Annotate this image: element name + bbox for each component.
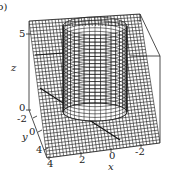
x-tick-neg2: -2 [135,147,145,157]
cylinder-mesh [63,17,127,121]
x-axis-label: x [108,162,114,172]
surface-plot: b) 5 z 0 -2 0 y 4 4 2 0 -2 x [0,0,171,174]
z-axis-label: z [11,63,16,73]
x-tick-2: 2 [79,155,85,165]
plot-canvas [0,0,171,174]
x-tick-4: 4 [47,159,53,169]
y-tick-0: 0 [29,127,35,137]
panel-label: b) [0,2,7,12]
z-tick-0: 0 [19,103,25,113]
y-tick-neg2: -2 [17,114,27,124]
y-tick-4: 4 [36,145,42,155]
y-axis-label: y [22,132,28,142]
x-tick-0: 0 [109,151,115,161]
z-tick-5: 5 [19,29,25,39]
